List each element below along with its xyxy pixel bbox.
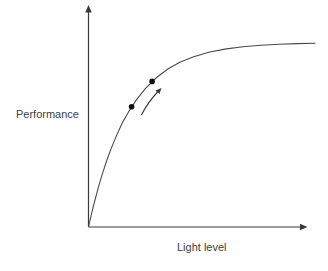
- data-point-lower: [129, 104, 135, 110]
- performance-curve: [89, 43, 316, 227]
- x-axis-label: Light level: [177, 241, 227, 254]
- chart-canvas: [0, 0, 328, 271]
- data-point-upper: [149, 79, 155, 85]
- shift-up-curve-arrow: [141, 92, 157, 115]
- performance-light-level-chart: Performance Light level: [0, 0, 328, 271]
- y-axis-label: Performance: [16, 108, 79, 121]
